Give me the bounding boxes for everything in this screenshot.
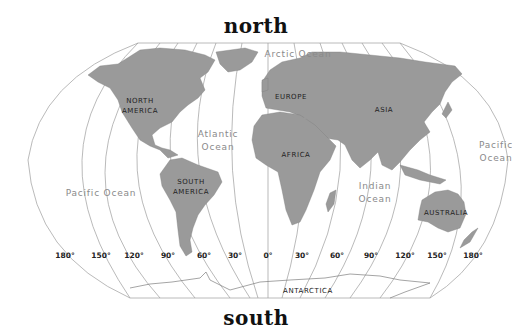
longitude-label: 150° [427, 251, 447, 260]
longitude-label: 150° [91, 251, 111, 260]
continent-label: ASIA [375, 106, 394, 114]
longitude-label: 60° [197, 251, 211, 260]
ocean-label: Atlantic [198, 129, 239, 139]
longitude-label: 90° [364, 251, 378, 260]
continent-label: AUSTRALIA [424, 209, 468, 217]
longitude-label: 30° [295, 251, 309, 260]
ocean-label: Arctic Ocean [265, 49, 332, 59]
longitude-label: 30° [228, 251, 242, 260]
continent-label: SOUTH [177, 178, 205, 186]
longitude-label: 60° [330, 251, 344, 260]
ocean-label: Indian [359, 181, 392, 191]
ocean-label: Pacific Ocean [66, 188, 137, 198]
longitude-label: 0° [264, 251, 273, 260]
longitude-label: 90° [161, 251, 175, 260]
ocean-label: Pacific [479, 140, 512, 150]
longitude-label: 180° [55, 251, 75, 260]
continent-label: AMERICA [173, 188, 209, 196]
continent-label: ANTARCTICA [283, 287, 333, 295]
uk-shape [262, 78, 268, 92]
longitude-label: 120° [124, 251, 144, 260]
continent-label: NORTH [126, 97, 154, 105]
continent-label: AFRICA [281, 151, 310, 159]
longitude-label: 120° [395, 251, 415, 260]
ocean-label: Ocean [480, 153, 512, 163]
continent-label: EUROPE [275, 93, 307, 101]
continent-label: AMERICA [122, 107, 158, 115]
south-heading: south [0, 306, 512, 330]
longitude-label: 180° [463, 251, 483, 260]
ocean-label: Ocean [359, 194, 392, 204]
ocean-label: Ocean [202, 142, 235, 152]
world-map: NORTH AMERICA EUROPE ASIA AFRICA SOUTH A… [0, 0, 512, 334]
